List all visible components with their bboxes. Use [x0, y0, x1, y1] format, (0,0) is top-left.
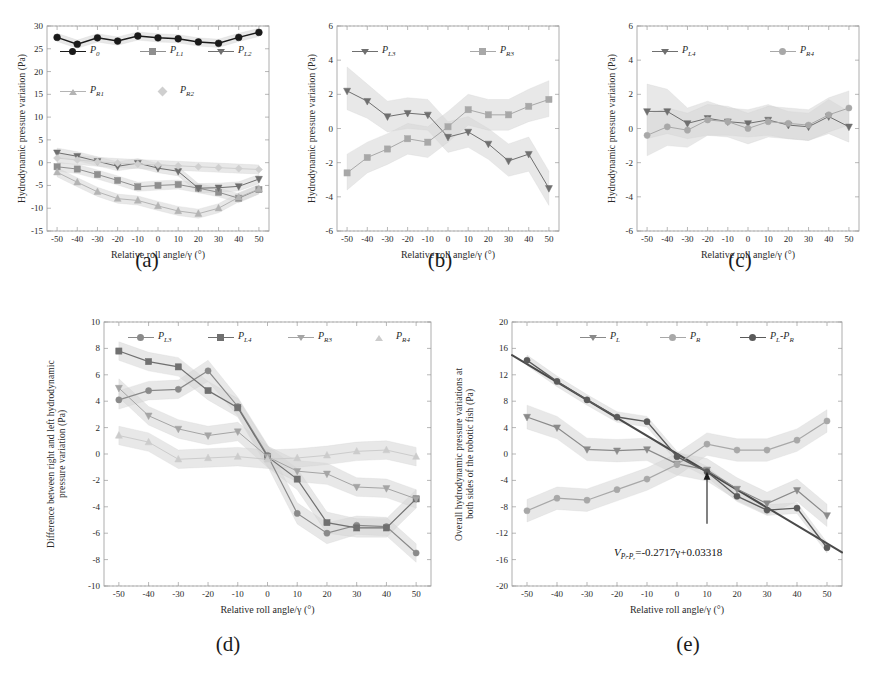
y-tick-label: -4	[484, 475, 508, 485]
y-tick-label: -4	[609, 192, 633, 202]
x-tick-label: 0	[156, 234, 161, 244]
legend-item-pr4[interactable]: PR4	[770, 44, 814, 58]
y-tick-label: -15	[19, 226, 43, 236]
legend-swatch-diamond-icon	[150, 86, 176, 96]
x-tick-label: -50	[51, 234, 63, 244]
y-tick-label: -4	[76, 502, 100, 512]
legend-label: PR2	[180, 84, 194, 98]
x-tick-label: 40	[793, 589, 802, 599]
x-tick-label: 40	[524, 234, 533, 244]
y-tick-label: -8	[484, 502, 508, 512]
x-tick-label: 50	[412, 589, 421, 599]
y-tick-label: 6	[309, 21, 333, 31]
x-tick-label: -10	[132, 234, 144, 244]
legend-label: PR3	[318, 330, 332, 344]
legend-swatch-triangle-down-icon	[652, 46, 678, 56]
x-tick-label: -30	[681, 234, 693, 244]
x-tick-label: 40	[824, 234, 833, 244]
legend-item-pl2[interactable]: PL2	[208, 44, 252, 58]
y-tick-label: -20	[484, 581, 508, 591]
legend-item-p0[interactable]: P0	[60, 44, 100, 58]
legend-item-pl3[interactable]: PL3	[128, 330, 172, 344]
panel-letter-e: (e)	[648, 632, 728, 657]
y-tick-label: 4	[609, 55, 633, 65]
y-tick-label: 6	[609, 21, 633, 31]
x-tick-label: 20	[784, 234, 793, 244]
legend-label: PL1	[170, 44, 184, 58]
legend-item-pl3[interactable]: PL3	[352, 44, 396, 58]
legend-item-pl4[interactable]: PL4	[652, 44, 696, 58]
x-tick-label: -30	[381, 234, 393, 244]
y-tick-label: 16	[484, 343, 508, 353]
y-tick-label: 5	[19, 135, 43, 145]
legend-swatch-triangle-down-icon	[352, 46, 378, 56]
x-tick-label: 30	[804, 234, 813, 244]
legend-swatch-triangle-down-icon	[208, 46, 234, 56]
x-tick-label: -50	[521, 589, 533, 599]
fit-equation-annotation: VPₗ-Pᵣ=-0.2717γ+0.03318	[614, 546, 722, 561]
y-tick-label: 0	[19, 158, 43, 168]
legend-swatch-triangle-up-icon	[60, 86, 86, 96]
y-tick-label: 6	[76, 370, 100, 380]
legend-label: PL-PR	[770, 330, 794, 344]
x-tick-label: -40	[551, 589, 563, 599]
x-axis-label: Relative roll angle/γ (°)	[512, 604, 842, 615]
legend-swatch-circle-icon	[770, 46, 796, 56]
panel-letter-a: (a)	[107, 248, 187, 273]
y-tick-label: 8	[76, 343, 100, 353]
legend-item-pr2[interactable]: PR2	[150, 84, 194, 98]
legend-item-pr3[interactable]: PR3	[470, 44, 514, 58]
legend-label: PL2	[238, 44, 252, 58]
y-tick-label: -6	[76, 528, 100, 538]
legend-item-pr1[interactable]: PR1	[60, 84, 104, 98]
legend-item-pl4[interactable]: PL4	[208, 330, 252, 344]
legend-swatch-triangle-up-icon	[366, 332, 392, 342]
y-axis-label: Hydrodynamic pressure variation (Pa)	[17, 26, 28, 231]
x-tick-label: 30	[763, 589, 772, 599]
x-tick-label: -40	[71, 234, 83, 244]
legend-item-pr3[interactable]: PR3	[288, 330, 332, 344]
x-tick-label: -10	[722, 234, 734, 244]
x-tick-label: 30	[352, 589, 361, 599]
x-tick-label: -50	[341, 234, 353, 244]
y-tick-label: 15	[19, 89, 43, 99]
y-tick-label: 0	[76, 449, 100, 459]
y-tick-label: -2	[76, 475, 100, 485]
x-tick-label: 10	[174, 234, 183, 244]
y-tick-label: 8	[484, 396, 508, 406]
legend-label: PR4	[396, 330, 410, 344]
x-tick-label: 10	[764, 234, 773, 244]
panel-letter-d: (d)	[188, 632, 268, 657]
legend-swatch-square-icon	[208, 332, 234, 342]
x-tick-label: -20	[112, 234, 124, 244]
legend-label: PR	[690, 330, 700, 344]
x-tick-label: -50	[113, 589, 125, 599]
x-axis-label: Relative roll angle/γ (°)	[104, 604, 431, 615]
x-tick-label: -10	[422, 234, 434, 244]
legend-swatch-triangle-down-icon	[288, 332, 314, 342]
y-axis-label: Overall hydrodynamic pressure variations…	[454, 322, 476, 586]
y-tick-label: 10	[19, 112, 43, 122]
y-tick-label: 25	[19, 44, 43, 54]
legend-item-pl1[interactable]: PL1	[140, 44, 184, 58]
x-tick-label: 0	[675, 589, 680, 599]
x-tick-label: -30	[172, 589, 184, 599]
y-tick-label: 4	[309, 55, 333, 65]
y-tick-label: 20	[19, 67, 43, 77]
legend-item-pl-pr[interactable]: PL-PR	[740, 330, 794, 344]
legend-label: PL	[610, 330, 620, 344]
y-tick-label: 10	[76, 317, 100, 327]
x-axis-label: Relative roll angle/γ (°)	[337, 249, 559, 260]
x-tick-label: 40	[382, 589, 391, 599]
x-tick-label: 50	[254, 234, 263, 244]
legend-item-pl[interactable]: PL	[580, 330, 620, 344]
legend-item-pr[interactable]: PR	[660, 330, 700, 344]
y-axis-label: Difference between right and left hydrod…	[46, 322, 68, 586]
x-tick-label: 10	[293, 589, 302, 599]
x-tick-label: -10	[232, 589, 244, 599]
legend-item-pr4[interactable]: PR4	[366, 330, 410, 344]
panel-letter-b: (b)	[400, 248, 480, 273]
x-tick-label: -50	[641, 234, 653, 244]
y-tick-label: 12	[484, 370, 508, 380]
y-tick-label: -5	[19, 180, 43, 190]
